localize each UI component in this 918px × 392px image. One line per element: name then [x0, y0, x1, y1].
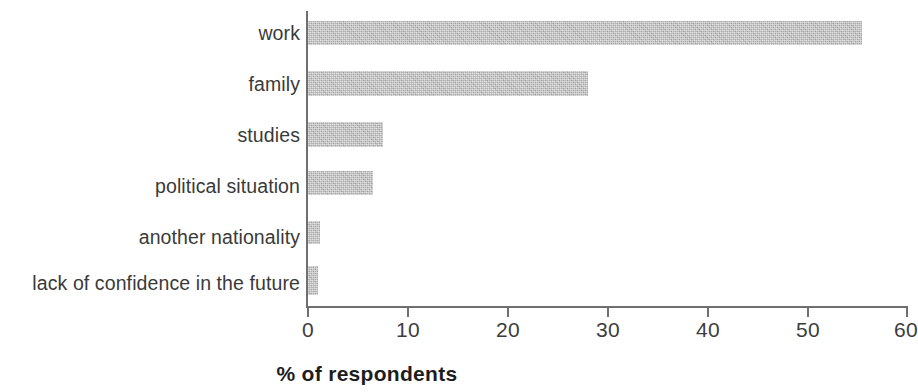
- x-axis-tick-label: 30: [596, 318, 620, 342]
- bar-chart: 0 10 20 30 40 50 60 work family studies …: [0, 0, 918, 392]
- y-axis-line: [306, 11, 308, 308]
- bar-political-situation: [308, 171, 373, 195]
- bar-lack-of-confidence-in-the-future: [308, 266, 318, 295]
- x-axis-tick: [607, 308, 609, 317]
- x-axis-tick: [407, 308, 409, 317]
- category-label-studies: studies: [238, 124, 301, 147]
- bar-studies: [308, 122, 383, 147]
- x-axis-tick-label: 60: [894, 318, 918, 342]
- category-label-another-nationality: another nationality: [139, 226, 300, 249]
- x-axis-tick-label: 0: [302, 318, 314, 342]
- bar-another-nationality: [308, 221, 320, 244]
- x-axis-tick: [507, 308, 509, 317]
- x-axis-tick: [906, 308, 908, 317]
- x-axis-tick-label: 20: [496, 318, 520, 342]
- x-axis-tick: [307, 308, 309, 317]
- plot-area: 0 10 20 30 40 50 60 work family studies …: [0, 0, 918, 392]
- category-label-lack-of-confidence-in-the-future: lack of confidence in the future: [32, 272, 300, 295]
- bar-family: [308, 71, 588, 96]
- x-axis-title: % of respondents: [0, 362, 918, 386]
- x-axis-tick: [807, 308, 809, 317]
- bar-work: [308, 21, 862, 45]
- x-axis-title-text: % of respondents: [277, 362, 458, 385]
- x-axis-tick-label: 50: [796, 318, 820, 342]
- category-label-political-situation: political situation: [155, 175, 300, 198]
- x-axis-tick-label: 10: [396, 318, 420, 342]
- x-axis-tick-label: 40: [696, 318, 720, 342]
- category-label-work: work: [258, 22, 300, 45]
- x-axis-tick: [707, 308, 709, 317]
- category-label-family: family: [248, 73, 300, 96]
